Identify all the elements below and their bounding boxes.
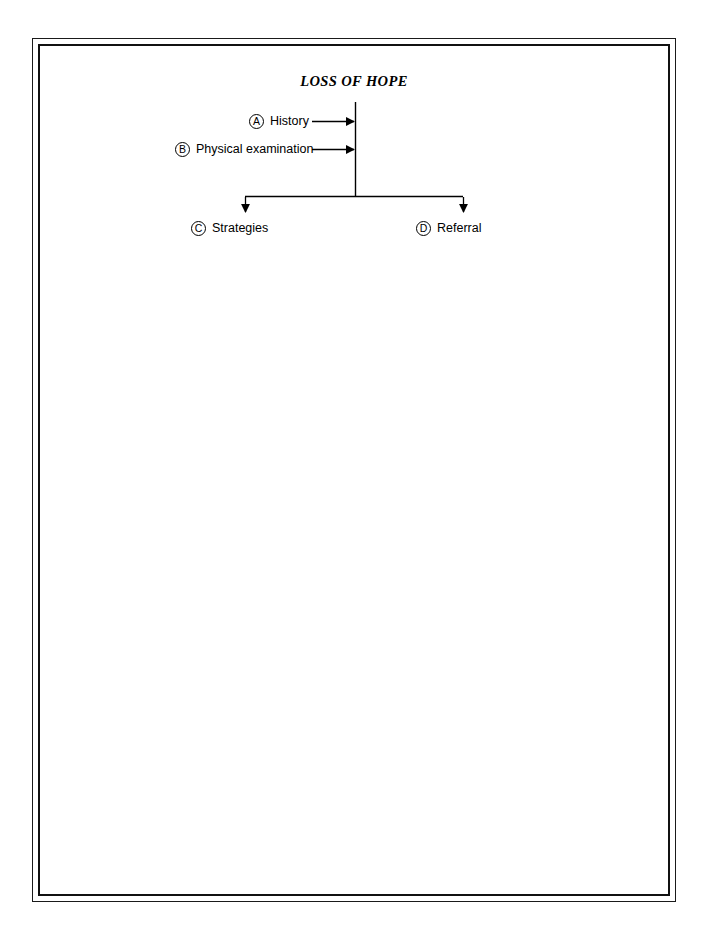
node-physical-examination: B Physical examination bbox=[175, 142, 313, 157]
node-label-strategies: Strategies bbox=[212, 222, 268, 235]
flowchart-connectors bbox=[0, 0, 708, 943]
node-marker-d: D bbox=[416, 221, 431, 236]
node-history: A History bbox=[249, 114, 309, 129]
node-label-history: History bbox=[270, 115, 309, 128]
node-marker-c: C bbox=[191, 221, 206, 236]
flowchart-diagram: LOSS OF HOPE A History B Physical examin… bbox=[0, 0, 708, 943]
node-label-physical-examination: Physical examination bbox=[196, 143, 313, 156]
node-marker-a: A bbox=[249, 114, 264, 129]
node-label-referral: Referral bbox=[437, 222, 481, 235]
node-strategies: C Strategies bbox=[191, 221, 268, 236]
node-marker-b: B bbox=[175, 142, 190, 157]
node-referral: D Referral bbox=[416, 221, 481, 236]
